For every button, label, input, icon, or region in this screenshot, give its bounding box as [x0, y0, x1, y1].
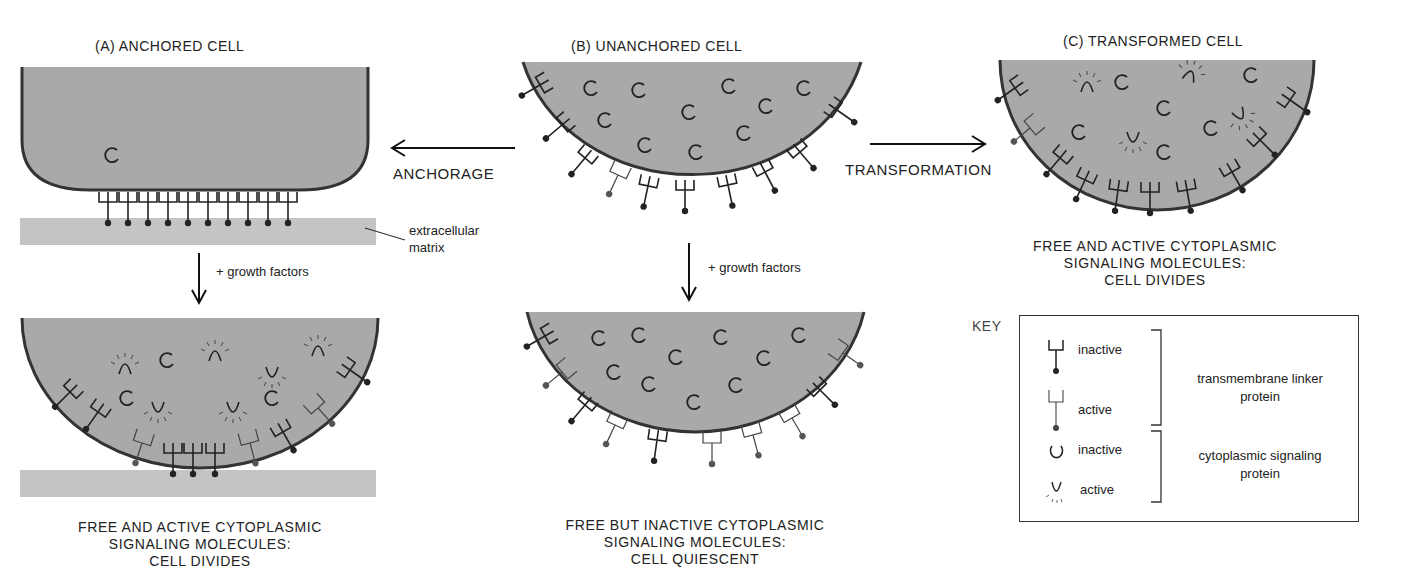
key-title: KEY [972, 318, 1002, 334]
growth-factors-label-b: + growth factors [708, 260, 801, 275]
growth-factors-label-a: + growth factors [216, 264, 309, 279]
transformation-label: TRANSFORMATION [845, 161, 992, 178]
key-signal-inactive: inactive [1078, 442, 1122, 457]
unanchored-cell-with-growth-factors [520, 312, 868, 467]
growth-factor-arrow-a [192, 253, 206, 303]
extracellular-matrix [20, 218, 376, 245]
key-signal-active: active [1080, 482, 1114, 497]
transformation-arrow [870, 136, 985, 152]
panel-c-caption: FREE AND ACTIVE CYTOPLASMIC SIGNALING MO… [990, 238, 1320, 289]
key-box [1019, 315, 1359, 522]
key-linker-active: active [1078, 402, 1112, 417]
transformed-cell [990, 56, 1315, 216]
key-signal-group: cytoplasmic signaling protein [1170, 447, 1350, 483]
panel-b-caption: FREE BUT INACTIVE CYTOPLASMIC SIGNALING … [510, 517, 880, 568]
key-linker-group: transmembrane linker protein [1170, 370, 1350, 406]
panel-b-title: (B) UNANCHORED CELL [571, 38, 742, 54]
unanchored-cell [515, 62, 862, 214]
key-linker-inactive: inactive [1078, 342, 1122, 357]
panel-c-title: (C) TRANSFORMED CELL [1063, 33, 1243, 49]
growth-factor-arrow-b [682, 243, 696, 300]
anchored-cell-with-growth-factors [20, 318, 378, 497]
panel-a-caption: FREE AND ACTIVE CYTOPLASMIC SIGNALING MO… [20, 519, 380, 570]
anchorage-arrow [392, 140, 515, 156]
anchorage-label: ANCHORAGE [393, 165, 494, 182]
panel-a-title: (A) ANCHORED CELL [95, 38, 244, 54]
anchored-cell [20, 67, 405, 245]
extracellular-matrix-label: extracellular matrix [409, 222, 479, 256]
